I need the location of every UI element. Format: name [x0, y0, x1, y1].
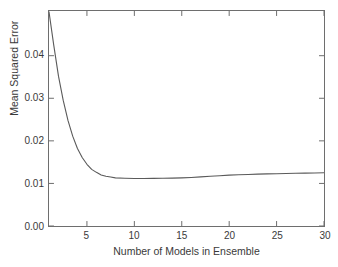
y-tick-label: 0.03 [25, 93, 44, 103]
y-axis-title: Mean Squared Error [9, 8, 20, 128]
x-tick-label: 25 [272, 231, 283, 241]
y-tick-label: 0.01 [25, 179, 44, 189]
x-tick-label: 20 [224, 231, 235, 241]
x-tick-label: 10 [128, 231, 139, 241]
y-axis-tick-labels: 0.000.010.020.030.04 [0, 0, 44, 267]
y-tick-label: 0.02 [25, 136, 44, 146]
x-tick-label: 5 [83, 231, 89, 241]
mse-curve-path [49, 12, 324, 179]
axis-ticks [49, 11, 324, 226]
x-tick-label: 30 [319, 231, 330, 241]
x-tick-label: 15 [176, 231, 187, 241]
y-tick-label: 0.00 [25, 222, 44, 232]
y-tick-label: 0.04 [25, 50, 44, 60]
series-line-mean-squared-error [49, 11, 324, 226]
x-axis-title: Number of Models in Ensemble [48, 246, 325, 257]
chart-figure: 0.000.010.020.030.04 51015202530 Number … [0, 0, 338, 267]
plot-area [48, 10, 325, 227]
